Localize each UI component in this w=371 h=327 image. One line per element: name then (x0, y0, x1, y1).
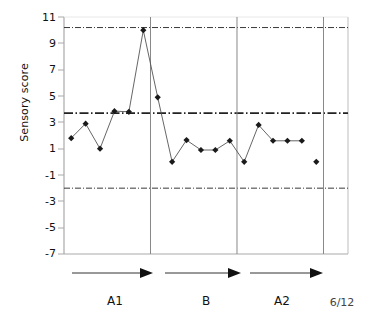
series-data-markers (68, 27, 319, 165)
data-point-marker (212, 147, 218, 153)
data-point-marker (169, 159, 175, 165)
sensory-score-chart-figure: Sensory score 11 9 7 5 3 1 -1 -3 -5 -7 (0, 0, 371, 327)
y-axis-ticks (58, 17, 64, 254)
reference-lines-group (64, 28, 348, 189)
data-point-marker (299, 138, 305, 144)
phase-arrows-group (72, 268, 323, 278)
data-point-marker (155, 94, 161, 100)
data-point-marker (198, 147, 204, 153)
phase-label-a1: A1 (90, 294, 140, 308)
data-point-marker (313, 159, 319, 165)
data-point-marker (241, 159, 247, 165)
phase-label-b: B (186, 294, 226, 308)
data-point-marker (227, 138, 233, 144)
chart-plot-area (0, 0, 371, 327)
data-point-marker (183, 137, 189, 143)
plot-frame (64, 17, 348, 254)
phase-label-a2: A2 (262, 294, 302, 308)
phase-divider-lines-group (150, 17, 323, 254)
data-point-marker (140, 27, 146, 33)
data-point-marker (284, 138, 290, 144)
annotation-session-date: 6/12 (322, 296, 362, 309)
data-point-marker (97, 146, 103, 152)
